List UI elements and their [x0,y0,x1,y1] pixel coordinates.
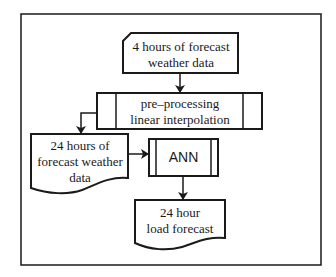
node-output-line1: 24 hour [160,205,201,220]
node-ann: ANN [149,139,218,176]
node-interpolated-line2: forecast weather [37,154,123,169]
flowchart-diagram: 4 hours of forecast weather data pre–pro… [0,0,336,277]
arrow-preprocess-to-interpolated [81,113,97,133]
node-input-line1: 4 hours of forecast [132,39,229,54]
node-preprocessing: pre–processing linear interpolation [97,93,262,129]
node-output-line2: load forecast [147,221,214,236]
node-interpolated-line3: data [69,170,91,185]
node-input-line2: weather data [148,55,214,70]
node-ann-label: ANN [169,149,199,165]
node-24h-load-forecast: 24 hour load forecast [135,200,225,249]
node-interpolated-line1: 24 hours of [50,138,110,153]
node-preprocessing-line1: pre–processing [141,96,220,111]
node-input-weather-data: 4 hours of forecast weather data [123,33,238,73]
node-preprocessing-line2: linear interpolation [130,112,230,127]
node-24h-forecast-weather-data: 24 hours of forecast weather data [31,134,128,193]
